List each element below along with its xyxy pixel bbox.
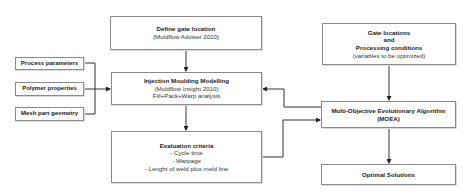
define-gate-box: Define gate location (Moldflow Adviser 2… — [110, 16, 262, 50]
injection-title: Injection Moulding Modelling — [144, 77, 229, 85]
injection-modelling-box: Injection Moulding Modelling (Moldflow I… — [111, 72, 262, 105]
moea-box: Multi-Objective Evolutionary Algorithm (… — [321, 101, 456, 128]
define-gate-subtitle: (Moldflow Adviser 2010) — [153, 33, 219, 41]
input-process-parameters: Process parameters — [15, 57, 84, 70]
input-mesh-part-geometry: Mesh part geometry — [15, 107, 84, 121]
injection-line2: Fill+Pack+Warp analysis — [153, 92, 221, 100]
optimal-label: Optimal Solutions — [362, 171, 415, 179]
input-label: Process parameters — [21, 60, 78, 68]
input-polymer-properties: Polymer properties — [15, 82, 84, 96]
gate-vars-line1: Gate locations — [368, 29, 411, 37]
gate-vars-line3: Processing conditions — [356, 44, 422, 52]
injection-line1: (Moldflow Insight 2010) — [155, 85, 219, 93]
gate-vars-line4: (variables to be optimized) — [353, 52, 426, 60]
evaluation-item: - Cycle time — [170, 149, 203, 157]
evaluation-title: Evaluation criteria — [160, 142, 214, 150]
gate-variables-box: Gate locations and Processing conditions… — [322, 23, 456, 65]
input-label: Polymer properties — [22, 85, 77, 93]
evaluation-item: - Warpage — [172, 157, 201, 165]
moea-line1: Multi-Objective Evolutionary Algorithm — [331, 107, 445, 115]
define-gate-title: Define gate location — [157, 25, 216, 33]
optimal-solutions-box: Optimal Solutions — [321, 164, 456, 185]
evaluation-item: - Lenght of weld plus meld line — [145, 165, 229, 173]
evaluation-criteria-box: Evaluation criteria - Cycle time - Warpa… — [111, 131, 262, 183]
gate-vars-line2: and — [383, 36, 394, 44]
input-label: Mesh part geometry — [21, 110, 78, 118]
moea-line2: (MOEA) — [377, 115, 400, 123]
